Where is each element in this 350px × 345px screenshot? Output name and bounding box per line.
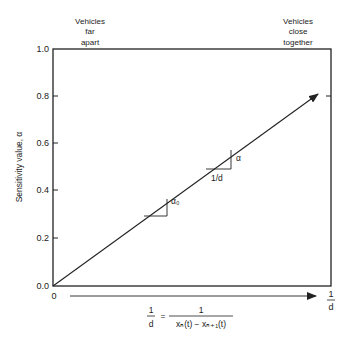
- y-ticks: [53, 96, 331, 238]
- svg-text:Vehicles: Vehicles: [75, 17, 105, 26]
- svg-text:0.4: 0.4: [36, 185, 49, 195]
- x-tick-zero: 0: [51, 291, 56, 301]
- svg-text:Vehicles: Vehicles: [283, 17, 313, 26]
- svg-text:d: d: [328, 302, 333, 312]
- svg-text:1: 1: [328, 289, 333, 299]
- svg-text:=: =: [161, 311, 166, 321]
- svg-text:1.0: 1.0: [36, 44, 49, 54]
- alpha-label: α: [236, 153, 241, 163]
- annotation-far-apart: Vehicles far apart: [75, 17, 105, 47]
- svg-text:close: close: [289, 27, 308, 36]
- x-axis-formula: 1 d = 1 xₙ(t) − xₙ₊₁(t): [147, 305, 233, 329]
- svg-text:far: far: [85, 27, 95, 36]
- svg-text:d: d: [149, 319, 154, 329]
- svg-text:1: 1: [149, 305, 154, 315]
- x-axis-end-label: 1 d: [327, 289, 335, 312]
- chart-canvas: 1.0 0.8 0.6 0.4 0.2 0.0 Sensitivity valu…: [0, 0, 350, 345]
- svg-text:0.8: 0.8: [36, 91, 49, 101]
- svg-text:1: 1: [199, 305, 204, 315]
- slope-triangle-alpha0: [144, 199, 167, 216]
- y-axis-label: Sensitivity value, α: [14, 132, 24, 203]
- plot-frame: [53, 49, 331, 286]
- svg-text:together: together: [283, 38, 313, 47]
- svg-text:0.0: 0.0: [36, 281, 49, 291]
- alpha0-label: α₀: [171, 196, 180, 206]
- svg-text:apart: apart: [81, 38, 100, 47]
- svg-text:0.2: 0.2: [36, 233, 49, 243]
- annotation-close-together: Vehicles close together: [283, 17, 313, 47]
- y-tick-labels: 1.0 0.8 0.6 0.4 0.2 0.0: [36, 44, 49, 291]
- run-label: 1/d: [211, 173, 223, 183]
- sensitivity-line: [53, 94, 318, 286]
- svg-text:0.6: 0.6: [36, 138, 49, 148]
- svg-text:xₙ(t) − xₙ₊₁(t): xₙ(t) − xₙ₊₁(t): [176, 319, 226, 329]
